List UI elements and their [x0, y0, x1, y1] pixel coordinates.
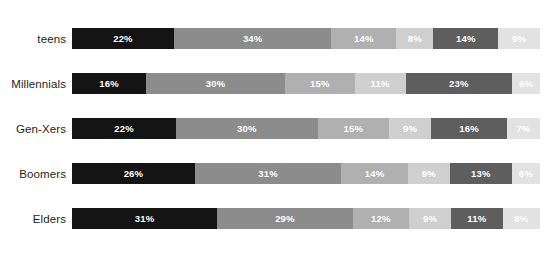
bar-segment: 31%	[195, 163, 342, 184]
bar-segment: 6%	[512, 73, 540, 94]
bar-segment: 13%	[450, 163, 511, 184]
bar-segment-value: 29%	[275, 213, 295, 224]
bar-segment-value: 8%	[408, 33, 422, 44]
bar-segment: 9%	[409, 208, 451, 229]
bar-segment: 9%	[498, 28, 540, 49]
bar-segment-value: 14%	[365, 168, 385, 179]
category-label: Elders	[0, 213, 72, 225]
bar-segment-value: 7%	[516, 123, 530, 134]
stacked-bar-chart: teens22%34%14%8%14%9%Millennials16%30%15…	[0, 0, 550, 253]
bar-segment: 14%	[331, 28, 396, 49]
bar-segment-value: 9%	[403, 123, 417, 134]
bar-segment: 23%	[406, 73, 513, 94]
bar-segment-value: 31%	[258, 168, 278, 179]
bar-segment: 22%	[72, 118, 176, 139]
bar-track: 16%30%15%11%23%6%	[72, 73, 540, 94]
bar-segment: 8%	[396, 28, 433, 49]
bar-segment: 9%	[408, 163, 451, 184]
bar-segment: 6%	[512, 163, 540, 184]
chart-plot-area: teens22%34%14%8%14%9%Millennials16%30%15…	[0, 0, 550, 253]
bar-segment-value: 16%	[459, 123, 479, 134]
bar-segment: 29%	[217, 208, 353, 229]
bar-row: teens22%34%14%8%14%9%	[0, 16, 550, 61]
bar-segment-value: 13%	[471, 168, 491, 179]
bar-row: Boomers26%31%14%9%13%6%	[0, 151, 550, 196]
bar-segment-value: 6%	[519, 168, 533, 179]
bar-segment-value: 6%	[519, 78, 533, 89]
bar-segment-value: 14%	[354, 33, 374, 44]
bar-segment: 16%	[72, 73, 146, 94]
bar-segment: 30%	[146, 73, 285, 94]
bar-segment-value: 9%	[423, 213, 437, 224]
bar-track: 26%31%14%9%13%6%	[72, 163, 540, 184]
bar-segment-value: 31%	[135, 213, 155, 224]
bar-segment: 11%	[355, 73, 406, 94]
bar-segment: 16%	[431, 118, 507, 139]
category-label: Gen-Xers	[0, 123, 72, 135]
bar-segment-value: 22%	[114, 123, 134, 134]
bar-segment: 15%	[318, 118, 389, 139]
bar-segment-value: 23%	[449, 78, 469, 89]
bar-segment-value: 9%	[512, 33, 526, 44]
bar-segment-value: 15%	[343, 123, 363, 134]
bar-segment: 8%	[503, 208, 540, 229]
category-label: teens	[0, 33, 72, 45]
bar-track: 22%34%14%8%14%9%	[72, 28, 540, 49]
bar-segment-value: 12%	[371, 213, 391, 224]
bar-segment-value: 16%	[99, 78, 119, 89]
bar-segment: 7%	[507, 118, 540, 139]
bar-track: 31%29%12%9%11%8%	[72, 208, 540, 229]
bar-segment: 31%	[72, 208, 217, 229]
bar-segment-value: 11%	[467, 213, 486, 224]
bar-segment-value: 26%	[124, 168, 144, 179]
bar-segment-value: 14%	[456, 33, 476, 44]
bar-segment-value: 11%	[371, 78, 390, 89]
bar-row: Elders31%29%12%9%11%8%	[0, 196, 550, 241]
bar-segment-value: 9%	[422, 168, 436, 179]
bar-segment: 9%	[389, 118, 432, 139]
bar-segment: 34%	[174, 28, 332, 49]
bar-segment: 12%	[353, 208, 409, 229]
bar-segment-value: 8%	[514, 213, 528, 224]
bar-segment: 14%	[433, 28, 498, 49]
bar-track: 22%30%15%9%16%7%	[72, 118, 540, 139]
bar-segment-value: 30%	[206, 78, 226, 89]
bar-segment-value: 30%	[237, 123, 257, 134]
bar-row: Millennials16%30%15%11%23%6%	[0, 61, 550, 106]
bar-segment: 11%	[451, 208, 502, 229]
bar-segment: 26%	[72, 163, 195, 184]
bar-segment: 30%	[176, 118, 318, 139]
bar-segment: 14%	[341, 163, 407, 184]
bar-segment-value: 15%	[310, 78, 330, 89]
bar-row: Gen-Xers22%30%15%9%16%7%	[0, 106, 550, 151]
bar-segment-value: 22%	[113, 33, 133, 44]
bar-segment-value: 34%	[243, 33, 263, 44]
category-label: Boomers	[0, 168, 72, 180]
bar-segment: 22%	[72, 28, 174, 49]
category-label: Millennials	[0, 78, 72, 90]
bar-segment: 15%	[285, 73, 355, 94]
